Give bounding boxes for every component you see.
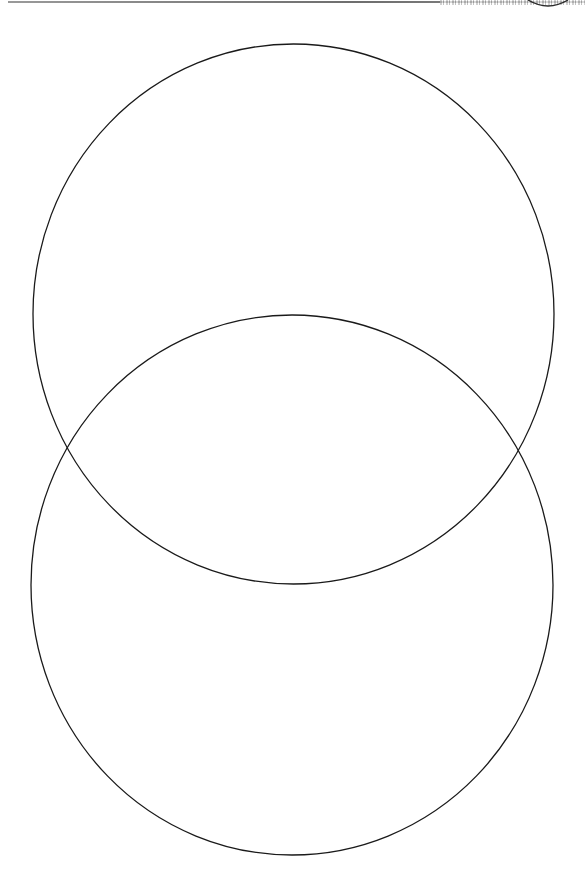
venn-diagram	[0, 0, 585, 872]
venn-circle-top	[33, 44, 554, 584]
venn-circle-bottom	[31, 315, 553, 855]
worksheet-page	[0, 0, 585, 872]
